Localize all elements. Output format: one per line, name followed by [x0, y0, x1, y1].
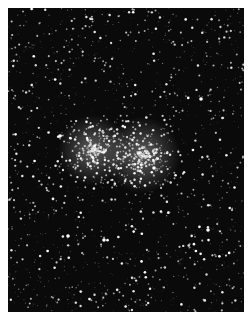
star-field-photo	[8, 8, 244, 312]
star-field-canvas	[8, 8, 244, 312]
